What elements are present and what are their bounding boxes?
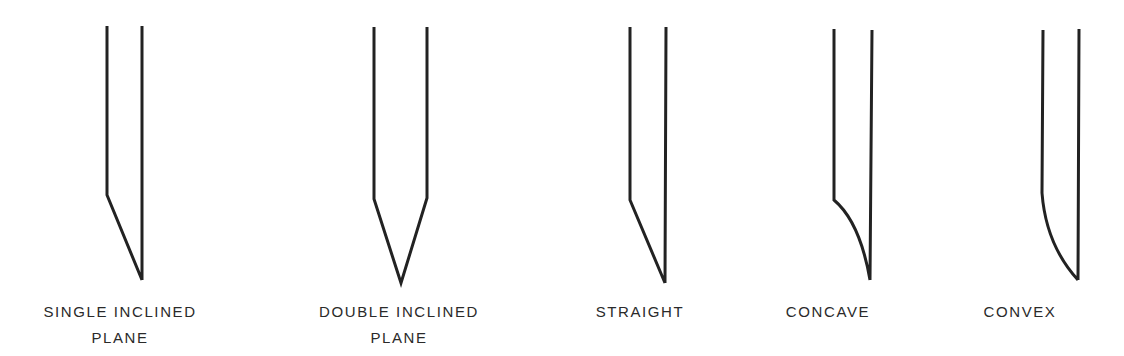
label-line: PLANE (319, 325, 479, 351)
straight-label: STRAIGHT (596, 299, 685, 325)
double-inclined-plane-label: DOUBLE INCLINED PLANE (319, 299, 479, 351)
label-line: CONCAVE (786, 299, 870, 325)
label-line: DOUBLE INCLINED (319, 299, 479, 325)
label-line: STRAIGHT (596, 299, 685, 325)
convex-label: CONVEX (984, 299, 1057, 325)
concave-shape (834, 29, 872, 280)
concave-label: CONCAVE (786, 299, 870, 325)
label-line: SINGLE INCLINED (43, 299, 196, 325)
straight-shape (630, 27, 666, 283)
double-inclined-plane-shape (374, 27, 427, 283)
convex-shape (1042, 29, 1079, 280)
single-inclined-plane-label: SINGLE INCLINED PLANE (43, 299, 196, 351)
label-line: CONVEX (984, 299, 1057, 325)
single-inclined-plane-shape (107, 26, 142, 280)
label-line: PLANE (43, 325, 196, 351)
